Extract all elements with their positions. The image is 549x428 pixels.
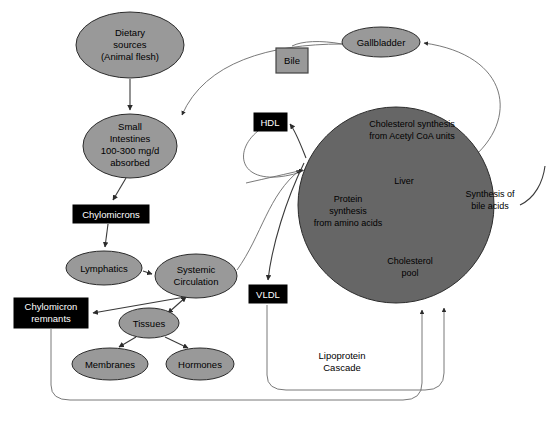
gallbladder-label: Gallbladder (357, 37, 406, 48)
node-liver[interactable]: Cholesterol synthesis from Acetyl CoA un… (298, 107, 515, 303)
liver-bile-acids-line2: bile acids (471, 201, 509, 211)
chylomicrons-label: Chylomicrons (82, 209, 140, 220)
lipoprotein-cascade-line1: Lipoprotein (318, 350, 365, 361)
chylomicron-remnants-line2: remnants (31, 313, 71, 324)
bile-label: Bile (284, 55, 300, 66)
cholesterol-metabolism-diagram: Cholesterol synthesis from Acetyl CoA un… (0, 0, 549, 428)
hormones-label: Hormones (178, 359, 222, 370)
hdl-label: HDL (260, 117, 279, 128)
liver-protein-synthesis-line3: from amino acids (314, 218, 383, 228)
tissues-label: Tissues (133, 318, 166, 329)
liver-cholesterol-pool-line1: Cholesterol (387, 256, 433, 266)
small-intestines-line3: 100-300 mg/d (101, 145, 160, 156)
node-layer: Cholesterol synthesis from Acetyl CoA un… (0, 0, 549, 428)
liver-cholesterol-pool-line2: pool (401, 268, 418, 278)
small-intestines-line4: absorbed (110, 157, 150, 168)
label-lipoprotein-cascade: Lipoprotein Cascade (318, 350, 365, 373)
dietary-sources-line1: Dietary (115, 27, 145, 38)
node-hdl[interactable]: HDL (254, 113, 287, 131)
liver-cholesterol-synthesis-line1: Cholesterol synthesis (369, 119, 455, 129)
small-intestines-line1: Small (118, 121, 142, 132)
node-chylomicrons[interactable]: Chylomicrons (73, 205, 149, 223)
membranes-label: Membranes (85, 359, 135, 370)
chylomicron-remnants-line1: Chylomicron (25, 301, 78, 312)
node-lymphatics[interactable]: Lymphatics (66, 251, 142, 285)
node-hormones[interactable]: Hormones (166, 348, 234, 380)
node-small-intestines[interactable]: Small Intestines 100-300 mg/d absorbed (83, 114, 177, 178)
node-tissues[interactable]: Tissues (119, 308, 179, 338)
liver-protein-synthesis-line1: Protein (334, 194, 363, 204)
node-bile[interactable]: Bile (276, 48, 308, 73)
dietary-sources-line3: (Animal flesh) (101, 51, 159, 62)
systemic-circulation-line1: Systemic (177, 264, 216, 275)
liver-protein-synthesis-line2: synthesis (329, 206, 367, 216)
node-gallbladder[interactable]: Gallbladder (342, 27, 420, 57)
dietary-sources-line2: sources (113, 39, 147, 50)
liver-cholesterol-synthesis-line2: from Acetyl CoA units (369, 131, 455, 141)
node-chylomicron-remnants[interactable]: Chylomicron remnants (14, 298, 88, 328)
systemic-circulation-line2: Circulation (174, 276, 219, 287)
node-systemic-circulation[interactable]: Systemic Circulation (155, 254, 237, 298)
lipoprotein-cascade-line2: Cascade (323, 362, 361, 373)
liver-label: Liver (394, 176, 414, 186)
liver-bile-acids-line1: Synthesis of (465, 189, 515, 199)
node-dietary-sources[interactable]: Dietary sources (Animal flesh) (76, 12, 184, 78)
node-vldl[interactable]: VLDL (249, 285, 287, 303)
node-membranes[interactable]: Membranes (72, 348, 148, 380)
small-intestines-line2: Intestines (110, 133, 151, 144)
lymphatics-label: Lymphatics (80, 263, 128, 274)
vldl-label: VLDL (256, 289, 280, 300)
